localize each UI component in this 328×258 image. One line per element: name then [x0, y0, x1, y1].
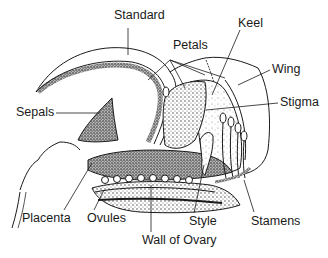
label-standard: Standard: [114, 9, 165, 22]
label-sepals: Sepals: [16, 106, 54, 119]
label-wing: Wing: [272, 63, 300, 76]
flower-diagram: Standard Petals Keel Wing Stigma Sepals …: [0, 0, 328, 258]
label-wall-of-ovary: Wall of Ovary: [142, 234, 217, 247]
label-keel: Keel: [238, 17, 263, 30]
label-placenta: Placenta: [22, 212, 71, 225]
label-ovules: Ovules: [87, 212, 126, 225]
label-stamens: Stamens: [251, 215, 300, 228]
label-petals: Petals: [173, 39, 208, 52]
label-stigma: Stigma: [280, 96, 319, 109]
label-style: Style: [189, 215, 217, 228]
